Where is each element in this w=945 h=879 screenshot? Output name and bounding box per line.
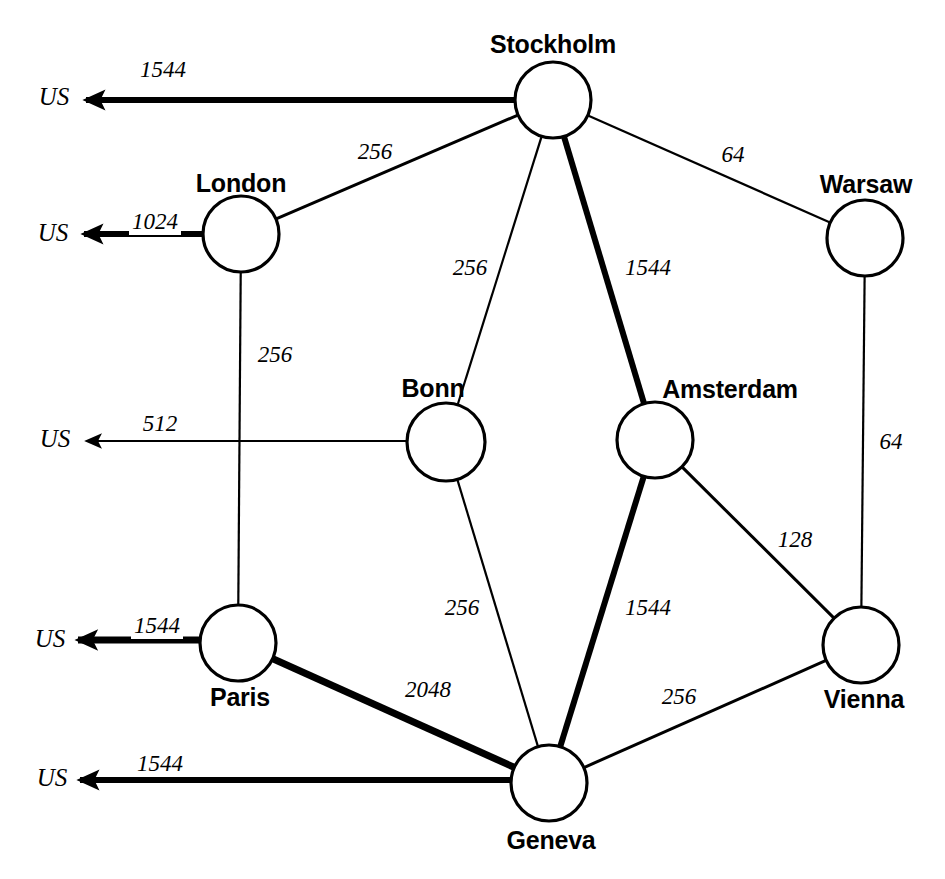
us-gateway-label-bonn-us: US — [40, 425, 71, 453]
uplink-bandwidth-bonn-us: 512 — [140, 411, 181, 437]
uplink-bandwidth-geneva-us: 1544 — [134, 751, 186, 777]
link-stockholm-london — [275, 115, 519, 220]
link-paris-geneva — [272, 658, 516, 768]
node-label-stockholm: Stockholm — [490, 30, 616, 59]
node-label-amsterdam: Amsterdam — [662, 375, 798, 404]
node-label-warsaw: Warsaw — [820, 170, 912, 199]
us-gateway-label-london-us: US — [38, 219, 69, 247]
us-gateway-label-stockholm-us: US — [39, 83, 70, 111]
node-label-vienna: Vienna — [824, 685, 904, 714]
link-stockholm-warsaw — [587, 115, 831, 223]
link-bandwidth-amsterdam-vienna: 128 — [775, 527, 816, 553]
link-bandwidth-london-paris: 256 — [255, 342, 296, 368]
link-bandwidth-amsterdam-geneva: 1544 — [622, 595, 674, 621]
node-label-bonn: Bonn — [401, 374, 464, 403]
link-bandwidth-warsaw-vienna: 64 — [877, 429, 906, 455]
node-label-paris: Paris — [210, 683, 270, 712]
link-bandwidth-paris-geneva: 2048 — [402, 677, 454, 703]
link-bandwidth-stockholm-london: 256 — [355, 139, 396, 165]
node-london[interactable] — [203, 196, 279, 272]
node-geneva[interactable] — [511, 745, 587, 821]
link-london-paris — [238, 271, 240, 606]
node-vienna[interactable] — [823, 607, 899, 683]
uplink-bandwidth-stockholm-us: 1544 — [137, 57, 189, 83]
node-label-london: London — [196, 169, 286, 198]
network-graph-canvas — [0, 0, 945, 879]
us-gateway-label-geneva-us: US — [37, 764, 68, 792]
network-diagram: StockholmLondonWarsawBonnAmsterdamVienna… — [0, 0, 945, 879]
link-bandwidth-geneva-vienna: 256 — [659, 684, 700, 710]
link-bandwidth-stockholm-amsterdam: 1544 — [622, 255, 674, 281]
link-bandwidth-stockholm-bonn: 256 — [450, 255, 491, 281]
node-bonn[interactable] — [407, 403, 485, 481]
us-gateway-label-paris-us: US — [35, 625, 66, 653]
uplink-bandwidth-paris-us: 1544 — [131, 613, 183, 639]
link-bandwidth-stockholm-warsaw: 64 — [719, 142, 748, 168]
node-warsaw[interactable] — [827, 200, 903, 276]
uplink-bandwidth-london-us: 1024 — [129, 209, 181, 235]
node-paris[interactable] — [200, 605, 276, 681]
link-bandwidth-bonn-geneva: 256 — [442, 595, 483, 621]
node-amsterdam[interactable] — [617, 402, 693, 478]
node-stockholm[interactable] — [515, 62, 591, 138]
link-warsaw-vienna — [861, 275, 864, 608]
link-geneva-vienna — [583, 660, 827, 768]
node-label-geneva: Geneva — [506, 826, 595, 855]
